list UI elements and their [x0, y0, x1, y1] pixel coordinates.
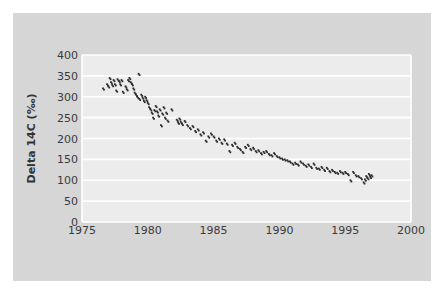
x-axis-ticks: 197519801985199019952000	[68, 224, 425, 237]
data-point	[245, 147, 247, 149]
data-point	[240, 149, 242, 151]
data-point	[295, 163, 297, 165]
data-point	[232, 145, 234, 147]
data-point	[290, 162, 292, 164]
x-tick-label: 1990	[265, 224, 293, 237]
data-point	[198, 130, 200, 132]
data-point	[356, 176, 358, 178]
data-point	[160, 110, 162, 112]
data-point	[227, 144, 229, 146]
data-point	[337, 173, 339, 175]
data-point	[266, 151, 268, 153]
data-point	[324, 170, 326, 172]
data-point	[122, 80, 124, 82]
data-point	[322, 167, 324, 169]
data-point	[127, 90, 129, 92]
y-axis-label: Delta 14C (‰)	[25, 94, 38, 184]
data-point	[179, 119, 181, 121]
data-point	[274, 153, 276, 155]
y-tick-label: 400	[57, 49, 78, 62]
data-point	[144, 101, 146, 103]
data-point	[253, 148, 255, 150]
data-point	[208, 137, 210, 139]
data-point	[353, 172, 355, 174]
data-point	[298, 165, 300, 167]
data-point	[152, 113, 154, 115]
data-point	[250, 149, 252, 151]
data-point	[365, 180, 367, 182]
data-point	[153, 118, 155, 120]
data-point	[243, 152, 245, 154]
data-point	[129, 78, 131, 80]
data-point	[329, 171, 331, 173]
data-point	[162, 114, 164, 116]
data-point	[258, 151, 260, 153]
data-point	[128, 80, 130, 82]
data-point	[158, 116, 160, 118]
data-point	[145, 97, 147, 99]
data-point	[178, 123, 180, 125]
data-point	[269, 154, 271, 156]
data-point	[261, 153, 263, 155]
data-point	[235, 143, 237, 145]
data-point	[219, 139, 221, 141]
data-point	[368, 179, 370, 181]
data-point	[306, 166, 308, 168]
data-point	[193, 126, 195, 128]
data-point	[361, 179, 363, 181]
data-point	[237, 147, 239, 149]
data-point	[272, 156, 274, 158]
data-point	[177, 120, 179, 122]
data-point	[119, 81, 121, 83]
data-point	[195, 131, 197, 133]
data-point	[248, 145, 250, 147]
data-point	[293, 164, 295, 166]
data-point	[372, 176, 374, 178]
data-point	[345, 172, 347, 174]
data-point	[203, 133, 205, 135]
y-tick-label: 50	[64, 195, 78, 208]
data-point	[308, 165, 310, 167]
data-point	[206, 141, 208, 143]
x-tick-label: 1980	[134, 224, 162, 237]
data-point	[120, 85, 122, 87]
data-point	[185, 121, 187, 123]
data-point	[256, 151, 258, 153]
data-point	[303, 164, 305, 166]
data-point	[132, 85, 134, 87]
data-point	[214, 137, 216, 139]
x-tick-label: 2000	[397, 224, 425, 237]
y-tick-label: 100	[57, 174, 78, 187]
data-point	[182, 124, 184, 126]
x-tick-label: 1995	[331, 224, 359, 237]
data-point	[314, 164, 316, 166]
scatter-chart: 050100150200250300350400 197519801985199…	[0, 0, 443, 292]
data-point	[156, 106, 158, 108]
data-point	[133, 89, 135, 91]
data-point	[340, 171, 342, 173]
x-tick-label: 1975	[68, 224, 96, 237]
data-point	[172, 110, 174, 112]
data-point	[200, 135, 202, 137]
data-point	[224, 140, 226, 142]
data-point	[222, 143, 224, 145]
y-axis-ticks: 050100150200250300350400	[57, 49, 78, 229]
data-point	[350, 181, 352, 183]
data-point	[165, 118, 167, 120]
data-point	[166, 113, 168, 115]
data-point	[287, 161, 289, 163]
data-point	[300, 162, 302, 164]
data-point	[332, 170, 334, 172]
data-point	[229, 151, 231, 153]
data-point	[141, 95, 143, 97]
data-point	[103, 89, 105, 91]
data-point	[150, 110, 152, 112]
data-point	[285, 160, 287, 162]
data-point	[343, 173, 345, 175]
data-point	[187, 125, 189, 127]
data-point	[110, 78, 112, 80]
data-point	[216, 141, 218, 143]
data-point	[143, 98, 145, 100]
data-point	[168, 121, 170, 123]
data-point	[123, 92, 125, 94]
